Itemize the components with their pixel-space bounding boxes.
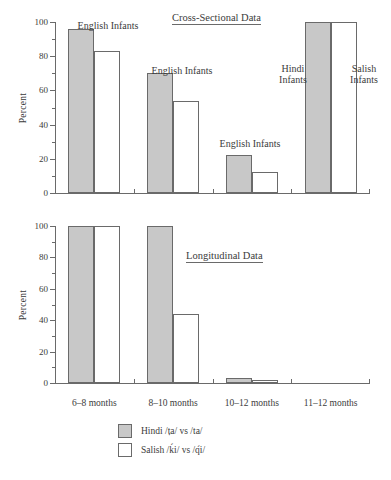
y-axis-tick-major bbox=[50, 125, 55, 126]
x-axis-end-cap bbox=[369, 189, 370, 194]
y-axis-tick-minor bbox=[52, 367, 55, 368]
x-axis-category-tick bbox=[134, 189, 135, 194]
x-axis-category-tick bbox=[291, 189, 292, 194]
y-axis-tick-minor bbox=[52, 176, 55, 177]
figure: Percent Cross-Sectional Data 02040608010… bbox=[0, 0, 391, 480]
bar-hindi bbox=[147, 226, 173, 383]
x-axis-category-tick bbox=[213, 189, 214, 194]
y-axis-line bbox=[55, 226, 56, 384]
x-axis-category-tick bbox=[134, 379, 135, 384]
bar-salish bbox=[94, 226, 120, 383]
y-axis-tick-label: 80 bbox=[39, 52, 48, 61]
bar-salish bbox=[173, 101, 199, 193]
bar-salish bbox=[173, 314, 199, 383]
y-axis-tick-minor bbox=[52, 142, 55, 143]
y-axis-tick-label: 60 bbox=[39, 284, 48, 293]
x-axis-category-tick bbox=[213, 379, 214, 384]
legend-swatch-open bbox=[118, 443, 132, 457]
bar-salish bbox=[331, 22, 357, 193]
bar-hindi bbox=[226, 378, 252, 383]
bar-salish bbox=[252, 380, 278, 383]
x-axis-end-cap bbox=[369, 379, 370, 384]
y-axis-tick-minor bbox=[52, 273, 55, 274]
plot-area-longitudinal: 020406080100 bbox=[55, 226, 370, 384]
legend-swatch-filled bbox=[118, 424, 132, 438]
y-axis-tick-minor bbox=[52, 108, 55, 109]
y-axis-tick-major bbox=[50, 193, 55, 194]
y-axis-tick-label: 60 bbox=[39, 86, 48, 95]
y-axis-tick-major bbox=[50, 320, 55, 321]
bar-hindi bbox=[68, 29, 94, 193]
bar-hindi bbox=[147, 73, 173, 193]
y-axis-tick-major bbox=[50, 257, 55, 258]
legend: Hindi /ṭa/ vs /ta/ Salish /ḱi/ vs /q́i/ bbox=[118, 421, 205, 459]
y-axis-tick-minor bbox=[52, 336, 55, 337]
x-axis-tick-label: 10–12 months bbox=[225, 398, 279, 408]
y-axis-tick-label: 40 bbox=[39, 316, 48, 325]
y-axis-tick-minor bbox=[52, 39, 55, 40]
legend-item-salish: Salish /ḱi/ vs /q́i/ bbox=[118, 440, 205, 459]
x-axis-tick-label: 6–8 months bbox=[72, 398, 117, 408]
y-axis-line bbox=[55, 22, 56, 194]
legend-label-hindi: Hindi /ṭa/ vs /ta/ bbox=[141, 426, 202, 436]
y-axis-label-top: Percent bbox=[18, 93, 28, 124]
x-axis-tick-label: 11–12 months bbox=[304, 398, 358, 408]
y-axis-tick-label: 20 bbox=[39, 347, 48, 356]
group-annotation: Hindi Infants bbox=[279, 63, 307, 85]
chart-panel-longitudinal: Percent Longitudinal Data 020406080100 bbox=[0, 212, 391, 397]
x-axis-tick-label: 8–10 months bbox=[148, 398, 197, 408]
bar-hindi bbox=[226, 155, 252, 193]
x-axis-category-tick bbox=[291, 379, 292, 384]
y-axis-tick-label: 80 bbox=[39, 253, 48, 262]
chart-panel-cross-sectional: Percent Cross-Sectional Data 02040608010… bbox=[0, 8, 391, 208]
y-axis-tick-major bbox=[50, 159, 55, 160]
bar-hindi bbox=[68, 226, 94, 383]
y-axis-tick-label: 40 bbox=[39, 120, 48, 129]
y-axis-tick-major bbox=[50, 352, 55, 353]
y-axis-tick-label: 20 bbox=[39, 154, 48, 163]
group-annotation: English Infants bbox=[220, 138, 281, 149]
y-axis-tick-major bbox=[50, 226, 55, 227]
group-annotation: English Infants bbox=[78, 20, 139, 31]
bar-salish bbox=[252, 172, 278, 193]
y-axis-tick-label: 100 bbox=[35, 222, 49, 231]
bar-salish bbox=[94, 51, 120, 193]
y-axis-tick-label: 0 bbox=[44, 379, 49, 388]
plot-area-cross-sectional: 020406080100 bbox=[55, 22, 370, 194]
y-axis-tick-major bbox=[50, 383, 55, 384]
legend-label-salish: Salish /ḱi/ vs /q́i/ bbox=[141, 445, 205, 455]
y-axis-tick-major bbox=[50, 289, 55, 290]
y-axis-tick-label: 100 bbox=[35, 18, 49, 27]
group-annotation: Salish Infants bbox=[350, 63, 378, 85]
y-axis-tick-minor bbox=[52, 242, 55, 243]
y-axis-tick-minor bbox=[52, 73, 55, 74]
legend-item-hindi: Hindi /ṭa/ vs /ta/ bbox=[118, 421, 205, 440]
y-axis-tick-label: 0 bbox=[44, 189, 49, 198]
group-annotation: English Infants bbox=[152, 65, 213, 76]
y-axis-tick-minor bbox=[52, 305, 55, 306]
y-axis-label-bottom: Percent bbox=[18, 289, 28, 320]
y-axis-tick-major bbox=[50, 22, 55, 23]
bar-hindi bbox=[305, 22, 331, 193]
y-axis-tick-major bbox=[50, 56, 55, 57]
y-axis-tick-major bbox=[50, 90, 55, 91]
